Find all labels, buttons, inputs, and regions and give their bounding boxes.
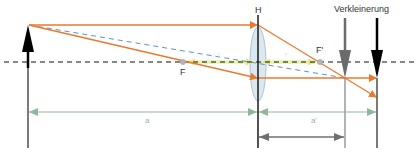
label-focal-length-left: f — [218, 52, 220, 58]
focal-point-f-prime — [317, 59, 322, 64]
label-f-prime: F' — [316, 46, 323, 55]
label-focal-length-right: f' — [285, 52, 288, 58]
label-h: H — [255, 6, 262, 15]
label-a: a — [145, 117, 149, 125]
image-arrow-gray — [339, 18, 351, 148]
optics-canvas — [0, 0, 419, 157]
focal-point-f — [180, 59, 185, 64]
central-ray-dashed — [29, 25, 345, 78]
image-arrow-black — [371, 18, 383, 148]
label-f: F — [180, 68, 186, 77]
label-verkleinerung: Verkleinerung — [334, 5, 389, 14]
thin-lens-diagram: Verkleinerung H F F' f f' a a' — [0, 0, 419, 157]
object-arrow — [22, 25, 34, 148]
label-a-prime: a' — [311, 117, 317, 125]
